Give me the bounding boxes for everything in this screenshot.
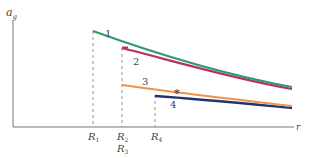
- curve-1-label: 1: [105, 28, 111, 39]
- y-axis-label: ag: [6, 6, 18, 21]
- tick-r1: R1: [87, 131, 99, 143]
- curve-1: [93, 31, 292, 87]
- tick-r3: R3: [116, 143, 129, 155]
- star-marker-icon: *: [174, 87, 180, 100]
- diagram-canvas: ag r R1 R2 R3 R4 1 2 3 4 *: [0, 0, 310, 158]
- tick-r4: R4: [150, 131, 163, 143]
- tick-r2: R2: [116, 131, 129, 143]
- curve-3-label: 3: [142, 76, 148, 87]
- curve-2-label: 2: [133, 56, 139, 67]
- x-axis-label: r: [296, 122, 301, 132]
- curve-4-label: 4: [170, 99, 176, 110]
- curve-3: [122, 85, 292, 106]
- gravitational-acceleration-diagram: ag r R1 R2 R3 R4 1 2 3 4 *: [0, 0, 310, 158]
